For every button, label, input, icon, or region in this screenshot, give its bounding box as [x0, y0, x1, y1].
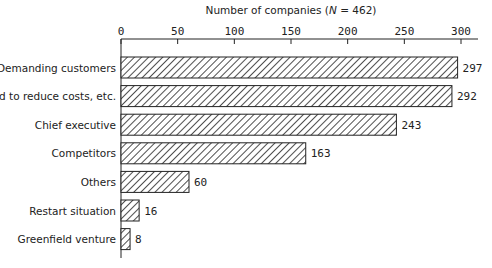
x-tick-label: 50: [171, 25, 184, 38]
value-label: 292: [457, 90, 477, 103]
bar-group: Greenfield venture8: [18, 229, 142, 250]
bar-chart: Number of companies (N = 462) 0501001502…: [0, 0, 492, 268]
bar-group: Restart situation16: [29, 200, 157, 221]
bar: [121, 86, 452, 107]
x-tick-label: 100: [224, 25, 244, 38]
x-axis: 050100150200250300: [118, 25, 478, 44]
x-tick-label: 0: [118, 25, 125, 38]
bar: [121, 171, 189, 192]
bar: [121, 57, 458, 78]
value-label: 243: [401, 119, 421, 132]
x-axis-label: Number of companies (N = 462): [206, 4, 377, 16]
bar-group: Chief executive243: [35, 114, 421, 135]
value-label: 163: [311, 147, 331, 160]
bar-group: Competitors163: [52, 143, 331, 164]
value-label: 16: [144, 205, 157, 218]
x-tick-label: 150: [281, 25, 301, 38]
category-label: Greenfield venture: [18, 233, 116, 245]
bar: [121, 114, 396, 135]
category-label: Demanding customers: [0, 62, 116, 74]
category-label: Need to reduce costs, etc.: [0, 90, 116, 102]
category-label: Chief executive: [35, 119, 116, 131]
x-axis-title: Number of companies (N = 462): [206, 4, 377, 16]
bar-group: Demanding customers297: [0, 57, 482, 78]
category-label: Others: [81, 176, 116, 188]
bar-group: Others60: [81, 171, 208, 192]
value-label: 297: [463, 62, 483, 75]
value-label: 8: [135, 233, 142, 246]
bar: [121, 143, 306, 164]
bar: [121, 229, 130, 250]
category-label: Competitors: [52, 147, 116, 159]
value-label: 60: [194, 176, 207, 189]
bar-group: Need to reduce costs, etc.292: [0, 86, 477, 107]
bar: [121, 200, 139, 221]
x-tick-label: 250: [394, 25, 414, 38]
x-tick-label: 200: [338, 25, 358, 38]
category-label: Restart situation: [29, 205, 116, 217]
bars: Demanding customers297Need to reduce cos…: [0, 57, 482, 250]
x-tick-label: 300: [451, 25, 471, 38]
